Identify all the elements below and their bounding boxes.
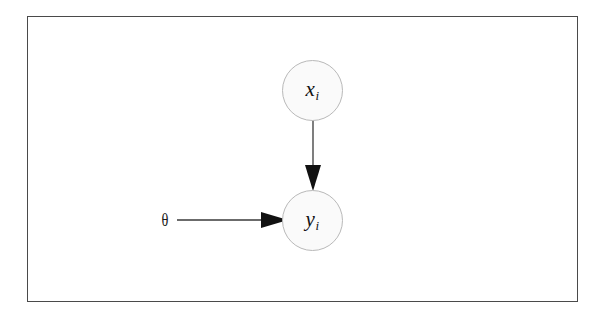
edge-x-to-y-arrowhead [305, 165, 321, 191]
node-y-subscript: i [316, 218, 320, 233]
node-y-variable: y [306, 207, 316, 231]
edge-x-to-y [305, 120, 321, 191]
node-x-variable: x [306, 77, 316, 101]
node-x: xi [282, 60, 343, 121]
edges-layer [0, 0, 604, 318]
parameter-theta-label: θ [162, 210, 169, 231]
figure-canvas: θ xi yi [0, 0, 604, 318]
node-y: yi [282, 190, 343, 251]
parameter-theta: θ [157, 208, 173, 232]
figure-frame: θ xi yi [27, 16, 578, 302]
edge-theta-to-y [177, 212, 288, 228]
node-y-label: yi [306, 209, 320, 232]
node-x-subscript: i [316, 88, 320, 103]
node-x-label: xi [306, 79, 320, 102]
